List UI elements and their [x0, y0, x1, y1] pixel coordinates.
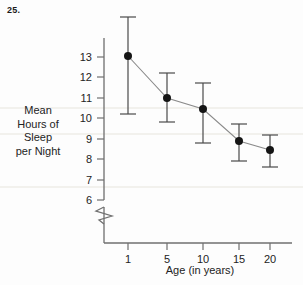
x-tick-label: 5: [164, 253, 170, 265]
y-tick-marks: [97, 57, 104, 200]
y-axis: [96, 38, 112, 243]
y-tick-labels: 13 12 11 10 9 8 7 6: [80, 51, 92, 206]
x-tick-label: 15: [233, 253, 245, 265]
figure-panel: 25. Mean Hours of Sleep per Night Age (i…: [0, 0, 303, 285]
x-tick-labels: 1 5 10 15 20: [125, 253, 276, 265]
error-bar-group: [120, 17, 278, 167]
plot-svg: 13 12 11 10 9 8 7 6 1 5 10 15 20: [0, 0, 303, 285]
x-tick-label: 10: [197, 253, 209, 265]
data-point: [163, 94, 171, 102]
error-bar: [120, 17, 136, 114]
y-tick-label: 13: [80, 51, 92, 63]
y-tick-label: 9: [86, 133, 92, 145]
data-point-group: [124, 52, 274, 154]
data-point: [266, 146, 274, 154]
y-tick-label: 12: [80, 71, 92, 83]
data-point: [124, 52, 132, 60]
x-tick-label: 20: [264, 253, 276, 265]
x-tick-marks: [128, 243, 270, 250]
y-tick-label: 7: [86, 174, 92, 186]
x-tick-label: 1: [125, 253, 131, 265]
y-tick-label: 10: [80, 112, 92, 124]
y-tick-label: 8: [86, 153, 92, 165]
data-point: [235, 137, 243, 145]
data-connector-line: [128, 56, 270, 150]
data-point: [199, 105, 207, 113]
y-tick-label: 11: [81, 92, 92, 104]
y-tick-label: 6: [86, 194, 92, 206]
